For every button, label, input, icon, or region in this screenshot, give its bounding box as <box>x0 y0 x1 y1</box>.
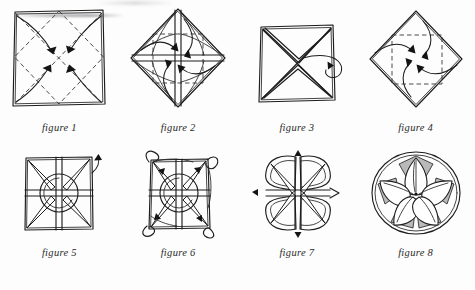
figure-cell-2: figure 2 <box>119 0 238 145</box>
figure-caption: figure 1 <box>42 122 77 133</box>
figure-grid: figure 1 <box>0 0 475 290</box>
figure-4-drawing <box>356 0 475 118</box>
figure-3-drawing <box>238 0 357 118</box>
figure-cell-1: figure 1 <box>0 0 119 145</box>
figure-caption: figure 2 <box>161 122 196 133</box>
figure-7-drawing <box>238 145 357 245</box>
figure-caption: figure 8 <box>398 247 433 258</box>
figure-cell-3: figure 3 <box>238 0 357 145</box>
figure-5-drawing <box>0 145 119 245</box>
figure-caption: figure 3 <box>279 122 314 133</box>
fold-arrows <box>141 19 215 99</box>
fold-arrows <box>375 21 457 97</box>
pull-arrow <box>92 154 102 173</box>
figure-caption: figure 5 <box>42 247 77 258</box>
figure-cell-4: figure 4 <box>356 0 475 145</box>
figure-cell-6: figure 6 <box>119 145 238 290</box>
figure-6-drawing <box>119 145 238 245</box>
diagram-sheet: figure 1 <box>0 0 475 290</box>
figure-1-drawing <box>0 0 119 118</box>
figure-caption: figure 6 <box>161 247 196 258</box>
figure-2-drawing <box>119 0 238 118</box>
figure-cell-7: figure 7 <box>238 145 357 290</box>
figure-cell-8: figure 8 <box>356 145 475 290</box>
figure-caption: figure 4 <box>398 122 433 133</box>
figure-8-drawing <box>356 145 475 245</box>
figure-cell-5: figure 5 <box>0 145 119 290</box>
figure-caption: figure 7 <box>279 247 314 258</box>
